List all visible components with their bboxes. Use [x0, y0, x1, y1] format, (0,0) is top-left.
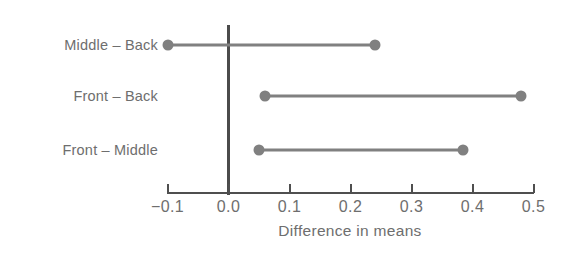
x-axis-tick: [533, 184, 535, 193]
interval-lower-endpoint: [162, 40, 173, 51]
interval-lower-endpoint: [260, 91, 271, 102]
category-label-front-back: Front – Back: [73, 88, 158, 104]
x-axis-tick-label: 0.5: [522, 198, 545, 216]
x-axis-tick: [472, 184, 474, 193]
x-axis-tick-label: 0.1: [278, 198, 301, 216]
interval-line: [168, 44, 375, 47]
x-axis-tick: [350, 184, 352, 193]
x-axis-tick-label: 0.3: [400, 198, 423, 216]
interval-lower-endpoint: [254, 145, 265, 156]
x-axis-tick-label: 0.2: [339, 198, 362, 216]
zero-reference-line: [227, 25, 230, 195]
category-label-front-middle: Front – Middle: [63, 142, 158, 158]
x-axis-tick-label: −0.1: [151, 198, 184, 216]
x-axis-tick: [411, 184, 413, 193]
interval-upper-endpoint: [369, 40, 380, 51]
confidence-interval-chart: Middle – Back Front – Back Front – Middl…: [0, 0, 566, 254]
interval-upper-endpoint: [516, 91, 527, 102]
x-axis-title: Difference in means: [278, 222, 421, 240]
x-axis-tick-label: 0.4: [461, 198, 484, 216]
x-axis-tick: [167, 184, 169, 193]
interval-line: [265, 95, 521, 98]
category-label-middle-back: Middle – Back: [64, 37, 158, 53]
interval-line: [259, 149, 463, 152]
interval-upper-endpoint: [458, 145, 469, 156]
x-axis-tick: [289, 184, 291, 193]
x-axis-tick-label: 0.0: [217, 198, 240, 216]
x-axis-tick: [228, 184, 230, 193]
